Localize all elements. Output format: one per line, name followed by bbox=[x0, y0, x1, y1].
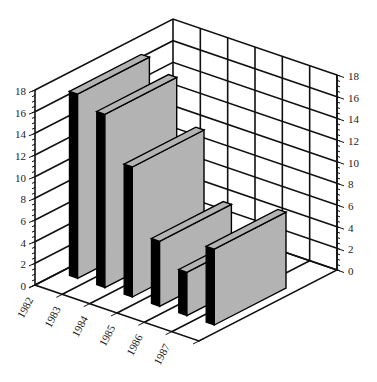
left-major-tick bbox=[29, 112, 35, 115]
right-tick-label: 6 bbox=[348, 200, 354, 212]
right-tick-label: 2 bbox=[348, 243, 354, 255]
bar-side-face bbox=[151, 239, 159, 307]
right-value-axis: 024681012141618 bbox=[337, 70, 360, 277]
left-tick-label: 14 bbox=[15, 128, 27, 140]
left-major-tick bbox=[29, 263, 35, 266]
right-major-tick bbox=[337, 118, 344, 121]
right-tick-label: 4 bbox=[348, 222, 354, 234]
right-major-tick bbox=[337, 248, 344, 251]
category-label-1986: 1986 bbox=[124, 332, 145, 358]
category-label-1983: 1983 bbox=[42, 304, 63, 330]
right-tick-label: 14 bbox=[348, 113, 360, 125]
right-major-tick bbox=[337, 97, 344, 100]
left-major-tick bbox=[29, 90, 35, 93]
left-tick-label: 6 bbox=[21, 215, 27, 227]
bar-side-face bbox=[69, 91, 77, 278]
gridline-18 bbox=[35, 19, 337, 90]
right-major-tick bbox=[337, 183, 344, 186]
right-major-tick bbox=[337, 270, 344, 273]
left-tick-label: 2 bbox=[21, 258, 27, 270]
right-major-tick bbox=[337, 162, 344, 165]
left-major-tick bbox=[29, 133, 35, 136]
left-major-tick bbox=[29, 177, 35, 180]
left-tick-label: 18 bbox=[15, 85, 27, 97]
bar-side-face bbox=[124, 164, 132, 297]
category-label-1985: 1985 bbox=[97, 323, 118, 348]
category-label-1984: 1984 bbox=[69, 313, 90, 339]
left-major-tick bbox=[29, 198, 35, 201]
category-label-1982: 1982 bbox=[15, 295, 36, 320]
bar-side-face bbox=[206, 246, 214, 325]
bar-side-face bbox=[179, 270, 187, 316]
3d-bar-chart: 024681012141618 024681012141618 19821983… bbox=[0, 0, 377, 382]
right-major-tick bbox=[337, 205, 344, 208]
right-major-tick bbox=[337, 140, 344, 143]
left-tick-label: 10 bbox=[15, 172, 27, 184]
right-tick-label: 18 bbox=[348, 70, 360, 82]
right-tick-label: 0 bbox=[348, 265, 354, 277]
left-value-axis: 024681012141618 bbox=[15, 85, 35, 292]
left-tick-label: 4 bbox=[21, 237, 27, 249]
right-tick-label: 16 bbox=[348, 92, 360, 104]
category-label-1987: 1987 bbox=[151, 341, 172, 367]
left-tick-label: 16 bbox=[15, 107, 27, 119]
right-tick-label: 12 bbox=[348, 135, 359, 147]
left-tick-label: 12 bbox=[15, 150, 26, 162]
left-tick-label: 8 bbox=[21, 193, 27, 205]
left-major-tick bbox=[29, 242, 35, 245]
left-major-tick bbox=[29, 220, 35, 223]
right-major-tick bbox=[337, 75, 344, 78]
right-tick-label: 10 bbox=[348, 157, 360, 169]
right-tick-label: 8 bbox=[348, 178, 354, 190]
left-tick-label: 0 bbox=[21, 280, 27, 292]
bar-series bbox=[69, 54, 286, 325]
bar-side-face bbox=[97, 112, 105, 288]
right-major-tick bbox=[337, 227, 344, 230]
left-major-tick bbox=[29, 155, 35, 158]
